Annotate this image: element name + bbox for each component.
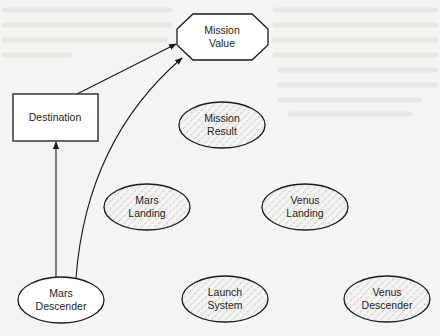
edge-destination-to-mission-value bbox=[77, 44, 176, 94]
node-label-line: Mars bbox=[135, 194, 158, 206]
node-venus-landing[interactable]: Venus Landing bbox=[262, 184, 348, 230]
node-label-line: Value bbox=[209, 37, 235, 49]
node-mission-result[interactable]: Mission Result bbox=[179, 102, 265, 148]
node-destination[interactable]: Destination bbox=[13, 94, 98, 141]
node-label-line: Venus bbox=[290, 194, 319, 206]
node-label-line: Destination bbox=[29, 111, 82, 123]
node-venus-descender[interactable]: Venus Descender bbox=[344, 276, 430, 322]
node-mission-value[interactable]: Mission Value bbox=[177, 14, 268, 60]
node-mars-landing[interactable]: Mars Landing bbox=[104, 184, 190, 230]
influence-diagram: Mission Value Destination Mission Result… bbox=[0, 0, 440, 336]
node-label-line: Descender bbox=[362, 299, 413, 311]
node-label-line: Landing bbox=[286, 207, 324, 219]
node-label-line: Mission bbox=[204, 112, 240, 124]
edge-mars-descender-to-mission-value bbox=[76, 58, 182, 278]
node-label-line: Launch bbox=[208, 286, 243, 298]
node-label-line: Mission bbox=[204, 24, 240, 36]
node-label-line: Descender bbox=[36, 300, 87, 312]
node-label-line: Landing bbox=[128, 207, 166, 219]
node-label-line: Venus bbox=[372, 286, 401, 298]
node-mars-descender[interactable]: Mars Descender bbox=[18, 277, 104, 323]
node-label-line: System bbox=[207, 299, 242, 311]
node-launch-system[interactable]: Launch System bbox=[182, 276, 268, 322]
node-label-line: Result bbox=[207, 125, 237, 137]
node-label-line: Mars bbox=[49, 287, 72, 299]
